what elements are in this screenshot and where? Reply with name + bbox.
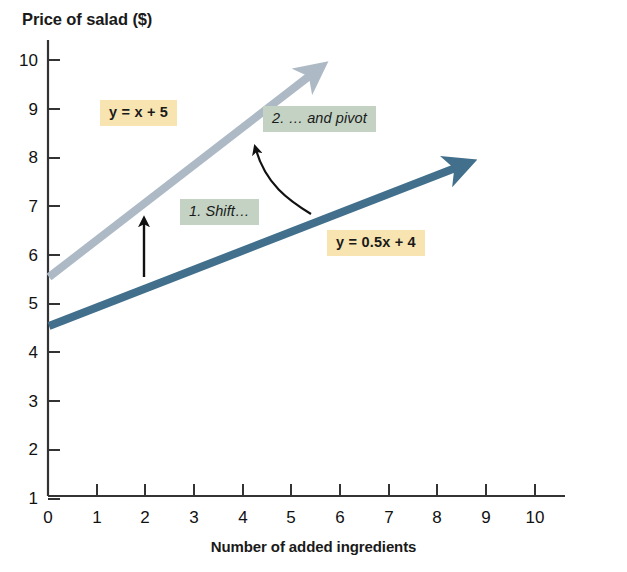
x-axis-ticks [97,484,535,496]
annotation-equation-shifted: y = x + 5 [100,100,177,126]
annotation-equation-original: y = 0.5x + 4 [327,230,425,256]
y-axis-ticks [48,60,60,499]
chart-canvas: Price of salad ($) Number of added ingre… [0,0,627,572]
pivot-arrow-icon [256,150,311,214]
line-series-shifted [49,74,312,277]
plot-area [0,0,627,572]
annotation-step-pivot: 2. … and pivot [263,106,376,132]
annotation-step-shift: 1. Shift… [180,199,259,225]
